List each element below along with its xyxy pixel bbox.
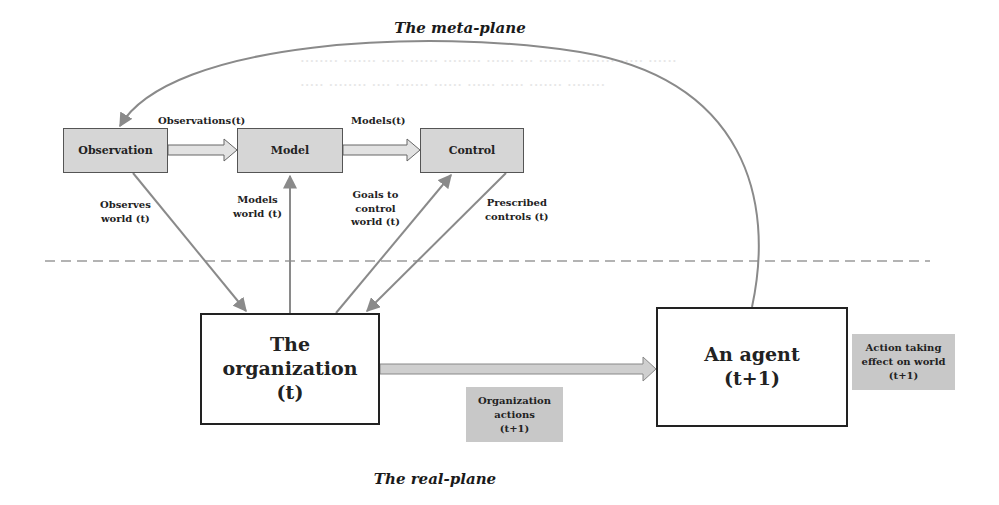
agent-node: An agent (t+1) <box>656 307 848 427</box>
control-label: Control <box>449 144 495 157</box>
observations-flow-label: Observations(t) <box>158 114 245 128</box>
model-node: Model <box>237 128 343 173</box>
organization-to-agent-arrow <box>380 357 656 381</box>
observation-node: Observation <box>63 128 168 173</box>
meta-plane-title: The meta-plane <box>380 19 540 37</box>
models-flow-arrow <box>343 139 420 161</box>
action-effect-label: Action taking effect on world (t+1) <box>852 334 955 390</box>
models-world-label: Models world (t) <box>233 193 282 220</box>
observation-label: Observation <box>78 144 152 157</box>
real-plane-title: The real-plane <box>355 470 515 488</box>
agent-time: (t+1) <box>724 367 780 391</box>
agent-label: An agent <box>704 343 799 367</box>
organization-actions-label: Organization actions (t+1) <box>466 387 563 442</box>
organization-label: The organization <box>202 333 378 381</box>
observations-flow-arrow <box>168 139 237 161</box>
control-node: Control <box>420 128 524 173</box>
feedback-arrow <box>120 41 759 307</box>
organization-node: The organization (t) <box>200 313 380 425</box>
model-label: Model <box>271 144 309 157</box>
organization-time: (t) <box>277 381 304 405</box>
models-flow-label: Models(t) <box>351 114 406 128</box>
prescribed-controls-label: Prescribed controls (t) <box>485 196 549 223</box>
observes-world-label: Observes world (t) <box>100 198 151 225</box>
goals-to-control-label: Goals to control world (t) <box>351 188 400 229</box>
observes-world-arrow <box>133 173 246 311</box>
